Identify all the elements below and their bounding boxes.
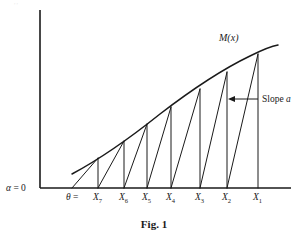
- curve-mx: [72, 45, 278, 174]
- staircase-diagonal-1: [227, 54, 258, 188]
- tick-label-x4: X4: [165, 192, 176, 204]
- slope-arrowhead-icon: [228, 96, 235, 102]
- tick-label-x3: X3: [194, 192, 204, 204]
- staircase-diagonal-7: [72, 158, 98, 188]
- curve-label-mx: M(x): [218, 32, 239, 44]
- tick-label-x1: X1: [252, 192, 262, 204]
- tick-label-x5: X5: [141, 192, 151, 204]
- alpha-zero-label: α = 0: [6, 183, 26, 193]
- figure-caption: Fig. 1: [141, 218, 167, 230]
- staircase-group: [72, 54, 258, 188]
- theta-label: θ =: [66, 192, 78, 202]
- tick-label-x2: X2: [221, 192, 231, 204]
- staircase-diagonal-2: [200, 72, 227, 188]
- figure-svg: α = 0 θ = X7 X6 X5 X4 X3 X2 X1 M(x) Slop…: [0, 0, 308, 237]
- slope-annotation-label: Slope a: [262, 94, 291, 104]
- staircase-diagonal-4: [147, 107, 171, 188]
- staircase-diagonal-6: [98, 141, 124, 188]
- staircase-diagonal-3: [171, 89, 200, 188]
- tick-label-x7: X7: [92, 192, 103, 204]
- tick-label-x6: X6: [118, 192, 129, 204]
- figure-container: ,,: [0, 0, 308, 237]
- slope-leader-group: [228, 96, 258, 102]
